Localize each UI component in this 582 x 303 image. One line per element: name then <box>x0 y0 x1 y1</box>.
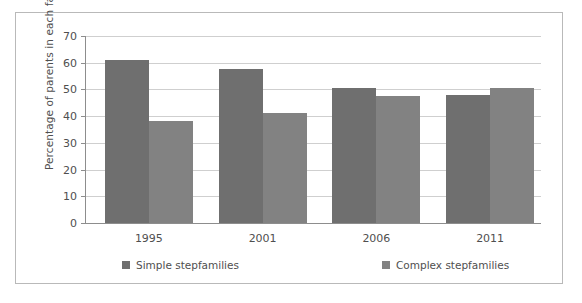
x-tick-label: 2001 <box>249 232 277 245</box>
bar-group: 2011 <box>446 36 534 223</box>
y-tick-mark <box>81 36 86 37</box>
bar[interactable] <box>105 60 149 223</box>
bar-group: 2001 <box>219 36 307 223</box>
y-tick-label: 40 <box>63 110 77 123</box>
x-tick-label: 1995 <box>135 232 163 245</box>
chart-legend: Simple stepfamilies Complex stepfamilies <box>86 257 541 273</box>
legend-swatch-icon <box>382 261 390 269</box>
bar-group: 2006 <box>332 36 420 223</box>
chart-figure-frame: Percentage of parents in each family typ… <box>15 12 563 284</box>
legend-item-complex-stepfamilies[interactable]: Complex stepfamilies <box>382 257 509 273</box>
x-tick-label: 2011 <box>476 232 504 245</box>
y-tick-mark <box>81 89 86 90</box>
y-tick-mark <box>81 116 86 117</box>
bar[interactable] <box>332 88 376 223</box>
y-tick-mark <box>81 223 86 224</box>
y-tick-label: 50 <box>63 83 77 96</box>
bar[interactable] <box>219 69 263 223</box>
y-tick-mark <box>81 143 86 144</box>
y-tick-label: 10 <box>63 190 77 203</box>
x-tick-label: 2006 <box>362 232 390 245</box>
y-axis-title: Percentage of parents in each family typ… <box>41 0 57 170</box>
y-tick-label: 20 <box>63 163 77 176</box>
y-tick-mark <box>81 63 86 64</box>
legend-label: Simple stepfamilies <box>136 259 239 271</box>
legend-item-simple-stepfamilies[interactable]: Simple stepfamilies <box>122 257 239 273</box>
bar[interactable] <box>490 88 534 223</box>
plot-inner: 0102030405060701995200120062011 <box>86 36 541 223</box>
bar[interactable] <box>376 96 420 223</box>
y-tick-mark <box>81 196 86 197</box>
y-tick-mark <box>81 170 86 171</box>
legend-label: Complex stepfamilies <box>396 259 509 271</box>
plot-area: 0102030405060701995200120062011 <box>86 36 541 223</box>
y-tick-label: 0 <box>70 217 77 230</box>
axis-baseline <box>86 223 541 224</box>
legend-swatch-icon <box>122 261 130 269</box>
bar-group: 1995 <box>105 36 193 223</box>
bar[interactable] <box>263 113 307 223</box>
y-tick-label: 30 <box>63 136 77 149</box>
bar[interactable] <box>446 95 490 223</box>
y-tick-label: 60 <box>63 56 77 69</box>
bar[interactable] <box>149 121 193 223</box>
y-tick-label: 70 <box>63 30 77 43</box>
